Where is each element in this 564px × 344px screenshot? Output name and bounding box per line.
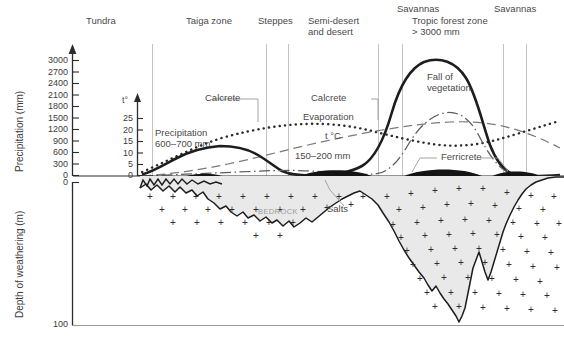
precip-tick-2700: 2700 bbox=[16, 67, 68, 77]
svg-text:+: + bbox=[537, 276, 543, 287]
depth-tick-0: 0 bbox=[30, 177, 68, 187]
svg-text:+: + bbox=[456, 301, 462, 312]
svg-text:+: + bbox=[424, 287, 430, 298]
weathering-climate-diagram: +++ +++ +++ +++ +++ +++ +++ +++ +++ +++ … bbox=[0, 0, 564, 344]
svg-text:+: + bbox=[492, 200, 498, 211]
svg-text:+: + bbox=[446, 229, 452, 240]
zone-label-tundra: Tundra bbox=[86, 16, 116, 27]
svg-text:+: + bbox=[404, 245, 410, 256]
svg-text:+: + bbox=[438, 215, 444, 226]
svg-text:+: + bbox=[465, 272, 471, 283]
svg-text:+: + bbox=[417, 273, 423, 284]
svg-text:+: + bbox=[520, 289, 526, 300]
svg-text:+: + bbox=[548, 247, 554, 258]
svg-text:+: + bbox=[240, 191, 246, 202]
svg-text:+: + bbox=[489, 273, 495, 284]
svg-text:+: + bbox=[496, 288, 502, 299]
temp-tick-5: 5 bbox=[108, 159, 133, 169]
temperature-axis bbox=[134, 93, 143, 176]
svg-text:+: + bbox=[360, 191, 366, 202]
svg-text:+: + bbox=[551, 191, 557, 202]
diagram-canvas: +++ +++ +++ +++ +++ +++ +++ +++ +++ +++ … bbox=[0, 0, 564, 344]
annotation-bedrock: BEDROCK bbox=[258, 208, 298, 217]
svg-text:+: + bbox=[494, 229, 500, 240]
svg-text:+: + bbox=[312, 191, 318, 202]
svg-text:+: + bbox=[552, 305, 558, 316]
svg-text:+: + bbox=[528, 304, 534, 315]
svg-text:+: + bbox=[534, 218, 540, 229]
svg-text:+: + bbox=[506, 259, 512, 270]
svg-text:+: + bbox=[472, 287, 478, 298]
depth-axis-title: Depth of weathering (m) bbox=[14, 211, 26, 318]
annotation-fall-of-vegetation: Fall of vegetation bbox=[427, 72, 471, 94]
svg-text:+: + bbox=[441, 272, 447, 283]
annotation-temperature: t °C bbox=[325, 131, 341, 142]
svg-text:+: + bbox=[266, 217, 272, 228]
svg-text:+: + bbox=[544, 290, 550, 301]
svg-text:+: + bbox=[398, 232, 404, 243]
svg-text:+: + bbox=[556, 218, 562, 229]
svg-text:+: + bbox=[428, 244, 434, 255]
depth-tick-100: 100 bbox=[30, 319, 68, 329]
svg-text:+: + bbox=[518, 231, 524, 242]
svg-text:+: + bbox=[458, 257, 464, 268]
svg-text:+: + bbox=[170, 191, 176, 202]
svg-text:+: + bbox=[408, 188, 414, 199]
svg-text:+: + bbox=[524, 246, 530, 257]
svg-text:+: + bbox=[410, 259, 416, 270]
crust-lenses bbox=[186, 169, 540, 176]
svg-text:+: + bbox=[218, 217, 224, 228]
precipitation-axis bbox=[69, 44, 79, 176]
svg-text:+: + bbox=[542, 232, 548, 243]
temp-tick-10: 10 bbox=[108, 148, 133, 158]
svg-text:+: + bbox=[193, 191, 199, 202]
svg-text:+: + bbox=[510, 217, 516, 228]
svg-text:+: + bbox=[554, 262, 560, 273]
svg-text:+: + bbox=[468, 198, 474, 209]
svg-text:+: + bbox=[420, 202, 426, 213]
temp-tick-25: 25 bbox=[108, 113, 133, 123]
svg-text:+: + bbox=[452, 243, 458, 254]
svg-text:+: + bbox=[390, 219, 396, 230]
svg-text:+: + bbox=[456, 183, 462, 194]
svg-text:+: + bbox=[516, 203, 522, 214]
svg-text:+: + bbox=[500, 244, 506, 255]
zone-label-semi-desert: Semi-desert and desert bbox=[308, 16, 359, 38]
precip-tick-2400: 2400 bbox=[16, 78, 68, 88]
svg-text:+: + bbox=[432, 301, 438, 312]
svg-text:+: + bbox=[432, 185, 438, 196]
zone-label-savannas-left: Savannas bbox=[397, 4, 439, 15]
svg-text:+: + bbox=[504, 187, 510, 198]
svg-text:+: + bbox=[486, 215, 492, 226]
svg-text:+: + bbox=[159, 204, 165, 215]
zone-label-taiga: Taiga zone bbox=[186, 16, 232, 27]
svg-text:+: + bbox=[264, 191, 270, 202]
svg-text:+: + bbox=[348, 199, 354, 210]
svg-text:+: + bbox=[396, 204, 402, 215]
svg-text:+: + bbox=[277, 230, 283, 241]
svg-text:+: + bbox=[422, 230, 428, 241]
svg-text:+: + bbox=[229, 204, 235, 215]
svg-text:+: + bbox=[513, 274, 519, 285]
svg-text:+: + bbox=[216, 191, 222, 202]
svg-text:+: + bbox=[480, 183, 486, 194]
svg-text:+: + bbox=[194, 217, 200, 228]
annotation-calcrete-left: Calcrete bbox=[205, 93, 240, 104]
temp-tick-0: 0 bbox=[108, 170, 133, 180]
svg-text:+: + bbox=[482, 257, 488, 268]
svg-text:+: + bbox=[414, 217, 420, 228]
svg-text:+: + bbox=[540, 204, 546, 215]
svg-text:+: + bbox=[448, 287, 454, 298]
annotation-ferricrete: Ferricrete bbox=[441, 152, 482, 163]
svg-text:+: + bbox=[462, 214, 468, 225]
svg-text:+: + bbox=[434, 258, 440, 269]
svg-text:+: + bbox=[290, 217, 296, 228]
zone-label-steppes: Steppes bbox=[258, 16, 293, 27]
svg-text:+: + bbox=[242, 217, 248, 228]
svg-text:+: + bbox=[530, 261, 536, 272]
zone-label-savannas-right: Savannas bbox=[494, 4, 536, 15]
svg-text:+: + bbox=[300, 204, 306, 215]
svg-text:+: + bbox=[504, 303, 510, 314]
svg-text:+: + bbox=[205, 204, 211, 215]
svg-text:+: + bbox=[170, 217, 176, 228]
